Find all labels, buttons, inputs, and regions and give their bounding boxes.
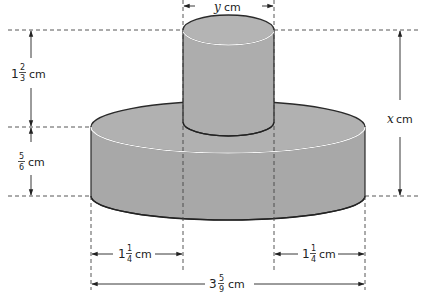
label-base-width: 3 5 9 cm — [209, 274, 245, 294]
svg-text:1: 1 — [11, 67, 19, 81]
svg-text:cm: cm — [135, 248, 152, 261]
svg-text:2: 2 — [20, 63, 25, 72]
label-total-height: x cm — [387, 112, 413, 126]
svg-text:3: 3 — [209, 277, 217, 291]
label-top-width: y cm — [213, 0, 241, 14]
svg-text:1: 1 — [311, 244, 316, 253]
svg-text:3: 3 — [20, 74, 25, 83]
svg-text:1: 1 — [118, 247, 126, 261]
svg-text:cm: cm — [29, 68, 46, 81]
composite-cylinder-diagram: y cm 1 2 3 cm 5 6 cm x cm 1 1 4 cm 1 1 4… — [0, 0, 425, 299]
svg-text:cm: cm — [28, 156, 45, 169]
svg-text:y: y — [213, 0, 221, 14]
svg-text:1: 1 — [302, 247, 310, 261]
svg-text:5: 5 — [219, 274, 224, 283]
svg-text:cm: cm — [319, 248, 336, 261]
small-cylinder-side — [183, 30, 274, 136]
svg-text:9: 9 — [219, 285, 224, 294]
svg-text:cm: cm — [228, 278, 245, 291]
svg-text:5: 5 — [19, 152, 24, 161]
svg-text:x: x — [387, 112, 394, 126]
label-right-offset: 1 1 4 cm — [302, 244, 336, 264]
svg-text:4: 4 — [311, 255, 316, 264]
svg-text:6: 6 — [19, 163, 24, 172]
svg-text:1: 1 — [127, 244, 132, 253]
svg-text:cm: cm — [224, 1, 241, 14]
label-left-offset: 1 1 4 cm — [118, 244, 152, 264]
label-small-height: 1 2 3 cm — [11, 63, 46, 83]
label-large-height: 5 6 cm — [18, 152, 45, 172]
svg-text:4: 4 — [127, 255, 132, 264]
svg-text:cm: cm — [396, 113, 413, 126]
small-cylinder — [183, 15, 274, 136]
